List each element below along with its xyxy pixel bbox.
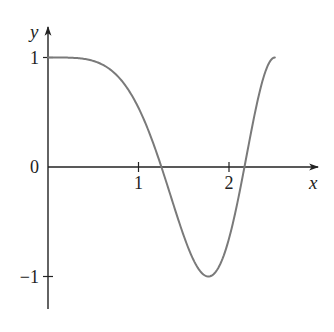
y-axis-label: y xyxy=(28,21,39,42)
x-tick-label: 2 xyxy=(225,173,234,193)
y-tick-label: 0 xyxy=(30,157,39,177)
chart: 12 10−1 x y xyxy=(0,0,334,332)
y-tick-label: −1 xyxy=(20,267,39,287)
x-axis-label: x xyxy=(308,172,318,193)
x-tick-label: 1 xyxy=(134,173,143,193)
y-tick-label: 1 xyxy=(30,48,39,68)
